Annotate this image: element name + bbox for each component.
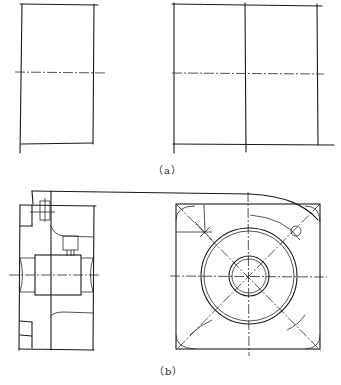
technical-sketch <box>0 0 341 385</box>
view-a-left-rectangle <box>15 4 107 153</box>
view-a-right-grid <box>172 3 334 153</box>
view-b-side-section <box>9 191 318 350</box>
caption-part-a: （a） <box>153 162 182 177</box>
caption-part-b: （b） <box>154 363 183 378</box>
view-b-front <box>170 192 327 356</box>
